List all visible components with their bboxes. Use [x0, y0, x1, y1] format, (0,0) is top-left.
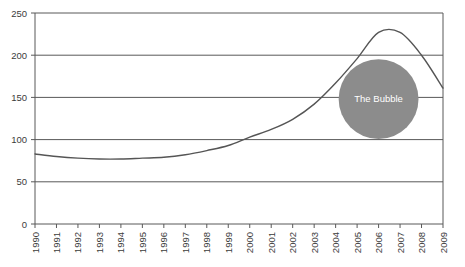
x-tick-label: 2003 — [309, 232, 320, 253]
x-tick-label: 1992 — [72, 232, 83, 253]
x-tick-label: 1991 — [51, 232, 62, 253]
x-tick-label: 2005 — [352, 232, 363, 253]
chart-container: 050100150200250 199019911992199319941995… — [0, 0, 465, 267]
y-tick-label: 200 — [11, 50, 27, 61]
x-tick-label: 2009 — [438, 232, 449, 253]
x-tick-label: 1997 — [180, 232, 191, 253]
bubble-label: The Bubble — [354, 93, 403, 104]
x-tick-label: 2001 — [266, 232, 277, 253]
x-tick-label: 2002 — [287, 232, 298, 253]
x-axis-ticks: 1990199119921993199419951996199719981999… — [30, 224, 449, 253]
y-tick-label: 100 — [11, 134, 27, 145]
x-tick-label: 2007 — [395, 232, 406, 253]
x-tick-label: 1999 — [223, 232, 234, 253]
x-tick-label: 2008 — [416, 232, 427, 253]
line-chart: 050100150200250 199019911992199319941995… — [0, 0, 465, 267]
y-tick-label: 150 — [11, 92, 27, 103]
x-tick-label: 1995 — [137, 232, 148, 253]
x-tick-label: 2000 — [244, 232, 255, 253]
x-tick-label: 1996 — [158, 232, 169, 253]
bubble-annotation: The Bubble — [339, 59, 419, 139]
y-tick-label: 250 — [11, 8, 27, 19]
x-tick-label: 2004 — [330, 232, 341, 253]
y-tick-label: 50 — [16, 176, 27, 187]
y-axis-ticks: 050100150200250 — [11, 8, 35, 230]
x-tick-label: 1990 — [30, 232, 41, 253]
x-tick-label: 1998 — [201, 232, 212, 253]
x-tick-label: 2006 — [373, 232, 384, 253]
y-tick-label: 0 — [22, 219, 27, 230]
x-tick-label: 1994 — [115, 232, 126, 253]
x-tick-label: 1993 — [94, 232, 105, 253]
